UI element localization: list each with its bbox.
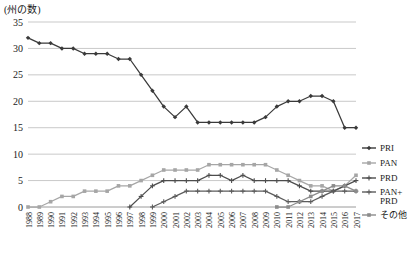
data-point [60, 195, 64, 199]
y-tick-label: 5 [18, 175, 23, 186]
series-pri [26, 36, 358, 130]
data-point [105, 52, 109, 56]
plot-area: 0510152025303519881989199019911992199319… [0, 0, 416, 262]
data-point [128, 184, 132, 188]
data-point [354, 126, 358, 130]
y-tick-label: 25 [13, 69, 23, 80]
y-tick-label: 20 [13, 96, 23, 107]
legend-label: PAN [380, 158, 398, 168]
data-point [218, 120, 222, 124]
data-point [298, 200, 302, 204]
data-point [173, 168, 177, 172]
x-tick-label: 2012 [296, 212, 305, 228]
y-tick-label: 10 [13, 149, 23, 160]
data-point [354, 189, 358, 193]
data-point [343, 184, 347, 188]
x-tick-label: 2004 [205, 212, 214, 228]
data-point [286, 205, 290, 209]
x-tick-label: 1998 [138, 212, 147, 228]
data-point [367, 161, 371, 165]
data-point [332, 184, 336, 188]
data-point [83, 189, 87, 193]
series-その他 [275, 184, 358, 209]
data-point [38, 205, 42, 209]
chart-root: (州の数) 0510152025303519881989199019911992… [0, 0, 416, 262]
chart-svg: 0510152025303519881989199019911992199319… [0, 0, 416, 262]
data-point [151, 173, 155, 177]
data-point [218, 163, 222, 167]
data-point [230, 163, 234, 167]
y-tick-label: 30 [13, 43, 23, 54]
data-point [26, 36, 30, 40]
legend-label: その他 [380, 209, 407, 220]
x-tick-label: 2016 [341, 212, 350, 228]
data-point [298, 179, 302, 183]
series-pan-prd [150, 189, 358, 210]
x-tick-label: 2011 [285, 212, 294, 228]
data-point [185, 168, 189, 172]
x-tick-label: 2015 [330, 212, 339, 228]
data-point [354, 173, 358, 177]
data-point [207, 163, 211, 167]
x-tick-label: 2007 [239, 212, 248, 228]
data-point [275, 205, 279, 209]
data-point [367, 213, 371, 217]
data-point [286, 173, 290, 177]
x-tick-label: 1993 [81, 212, 90, 228]
data-point [49, 200, 53, 204]
legend-item-pri[interactable]: PRI [362, 143, 394, 153]
data-point [275, 168, 279, 172]
x-tick-label: 1996 [115, 212, 124, 228]
x-tick-label: 2010 [273, 212, 282, 228]
data-point [309, 94, 313, 98]
data-point [139, 179, 143, 183]
data-point [196, 168, 200, 172]
data-point [26, 205, 30, 209]
data-point [94, 189, 98, 193]
data-point [252, 163, 256, 167]
x-tick-label: 2005 [217, 212, 226, 228]
legend-item-pan[interactable]: PAN [362, 158, 398, 168]
x-tick-label: 2009 [262, 212, 271, 228]
legend-item-pan-prd[interactable]: PAN+PRD [362, 187, 402, 206]
data-point [71, 46, 75, 50]
data-point [320, 189, 324, 193]
x-tick-label: 2013 [307, 212, 316, 228]
data-point [297, 99, 301, 103]
x-tick-label: 2008 [251, 212, 260, 228]
x-tick-label: 1989 [36, 212, 45, 228]
data-point [264, 163, 268, 167]
x-tick-label: 2000 [160, 212, 169, 228]
x-tick-label: 2002 [183, 212, 192, 228]
data-point [241, 120, 245, 124]
legend-item-prd[interactable]: PRD [362, 173, 398, 183]
y-tick-label: 0 [18, 202, 23, 213]
data-point [229, 120, 233, 124]
y-tick-label: 35 [13, 17, 23, 28]
x-tick-label: 1990 [47, 212, 56, 228]
x-tick-label: 2001 [172, 212, 181, 228]
data-point [37, 41, 41, 45]
legend-label: PRD [380, 196, 398, 206]
x-tick-label: 1994 [92, 212, 101, 228]
data-point [60, 46, 64, 50]
y-tick-label: 15 [13, 122, 23, 133]
data-point [207, 120, 211, 124]
data-point [117, 184, 121, 188]
x-tick-label: 1992 [70, 212, 79, 228]
data-point [105, 189, 109, 193]
data-point [320, 184, 324, 188]
x-tick-label: 2006 [228, 212, 237, 228]
x-tick-label: 1997 [126, 212, 135, 228]
data-point [331, 99, 335, 103]
data-point [48, 41, 52, 45]
x-tick-label: 1988 [25, 212, 34, 228]
series-line [28, 165, 356, 207]
legend: PRIPANPRDPAN+PRDその他 [362, 143, 407, 220]
data-point [320, 94, 324, 98]
x-tick-label: 2003 [194, 212, 203, 228]
x-tick-label: 1991 [58, 212, 67, 228]
legend-item-その他[interactable]: その他 [362, 209, 407, 220]
data-point [367, 146, 371, 150]
data-point [252, 120, 256, 124]
